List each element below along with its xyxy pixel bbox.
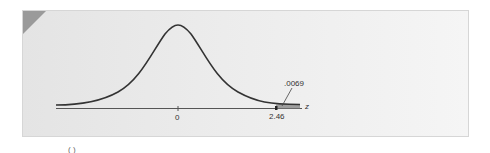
- tick-critical: [275, 106, 278, 110]
- normal-curve: [56, 25, 300, 105]
- area-annotation: .0069: [284, 79, 304, 88]
- tick-label-zero: 0: [175, 113, 179, 122]
- annotation-leader-line: [282, 88, 292, 106]
- axis-label-z: z: [305, 102, 309, 111]
- figure-caption: ( ): [68, 145, 76, 153]
- normal-curve-plot: [0, 0, 490, 153]
- tick-label-critical: 2.46: [269, 112, 285, 121]
